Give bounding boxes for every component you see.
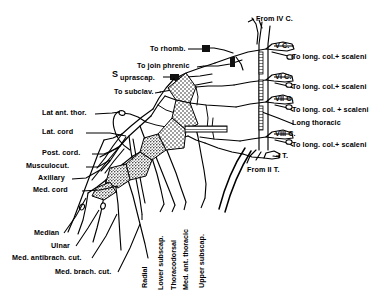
label-v-c: V C.: [275, 42, 289, 49]
label-median: Median: [34, 229, 59, 236]
label-to-long-col-scaleni-4: To long. col.+ scaleni: [292, 141, 367, 148]
label-to-subclav: To subclav.: [114, 88, 154, 95]
label-from-ii-t: From II T.: [247, 166, 280, 173]
to-rhomb-branch: [202, 45, 233, 53]
label-viii-c: VIII C.: [275, 130, 296, 137]
label-upper-subscap: Upper subscap.: [198, 234, 205, 288]
label-to-long-col-scaleni-1: To long. col.+ scaleni: [292, 53, 367, 60]
label-med-ant-thoracic: Med. ant. thoracic: [182, 229, 189, 290]
to-join-phrenic-branch: [204, 57, 243, 70]
label-med-antibrach-cut: Med. antibrach. cut.: [12, 254, 82, 261]
label-lat-cord: Lat. cord: [42, 128, 73, 135]
label-to-join-phrenic: To join phrenic: [137, 62, 189, 69]
label-to-long-col-scaleni-2: To long. col.+ scaleni: [292, 83, 367, 90]
label-lat-ant-thor: Lat ant. thor.: [42, 109, 87, 116]
label-from-iv-c: From IV C.: [256, 15, 293, 22]
label-ulnar: Ulnar: [51, 242, 70, 249]
label-suprascap: uprascap.: [120, 74, 155, 81]
label-vii-c: VII C.: [275, 95, 294, 102]
label-lower-subscap: Lower subscap.: [157, 236, 164, 290]
brachial-plexus-diagram: To rhomb. To join phrenic S uprascap. To…: [0, 0, 389, 296]
label-suprascap-initial: S: [112, 70, 118, 79]
label-thoracodorsal: Thoracodorsal: [170, 240, 177, 290]
column-hatch-strip: [230, 52, 263, 130]
label-med-brach-cut: Med. brach. cut.: [55, 268, 111, 275]
label-vi-c: VI C.: [275, 73, 291, 80]
label-to-long-col-scaleni-3: To long. col. + scaleni: [292, 106, 369, 113]
label-i-t: I T.: [278, 152, 288, 159]
label-long-thoracic: Long thoracic: [292, 119, 341, 126]
first-rib-arc: [219, 148, 251, 212]
label-med-cord: Med. cord: [33, 186, 68, 193]
suprascapular-nerve: [170, 74, 212, 80]
label-axillary: Axillary: [38, 174, 65, 181]
label-musculocut: Musculocut.: [26, 162, 69, 169]
lower-trunk: [188, 136, 243, 154]
label-post-cord: Post. cord.: [42, 149, 80, 156]
clavicle-hatch-bar: [185, 126, 227, 132]
label-radial: Radial: [141, 266, 148, 288]
label-to-rhomb: To rhomb.: [150, 45, 186, 52]
med-ant-thoracic-nerve: [164, 143, 186, 202]
